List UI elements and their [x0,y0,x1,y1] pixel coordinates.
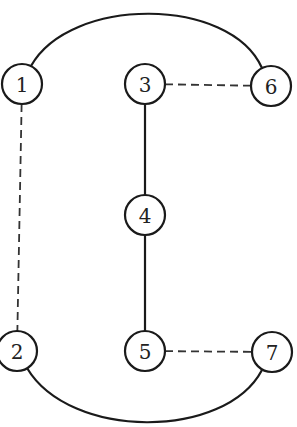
node-1: 1 [2,64,42,104]
node-label: 2 [11,340,24,364]
edge-1-2 [17,104,21,331]
edge-5-7 [165,351,252,352]
node-5: 5 [125,331,165,371]
node-label: 5 [139,340,152,364]
edge-3-6 [165,84,251,85]
node-6: 6 [251,66,291,106]
node-4: 4 [125,195,165,235]
node-3: 3 [125,64,165,104]
edge-2-7 [27,368,262,422]
node-label: 7 [266,341,279,365]
node-label: 4 [139,204,152,228]
node-label: 3 [139,73,152,97]
graph-diagram: 1234567 [0,0,297,427]
node-label: 1 [16,73,29,97]
node-7: 7 [252,332,292,372]
node-2: 2 [0,331,37,371]
node-label: 6 [265,75,278,99]
edge-1-6 [31,14,262,68]
